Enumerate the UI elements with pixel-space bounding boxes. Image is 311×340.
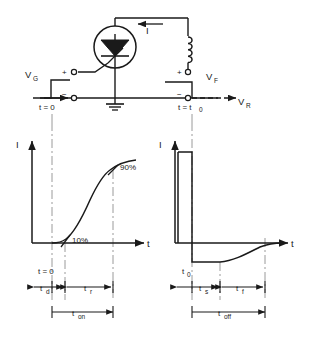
turn-on-origin-label: t = 0 bbox=[38, 267, 54, 276]
vr-label: V bbox=[238, 96, 245, 107]
turn-off-x-label: t bbox=[291, 238, 294, 249]
gate-terminal-negative bbox=[71, 95, 76, 100]
anode-plus-sign: + bbox=[177, 68, 182, 77]
turn-off-y-label: I bbox=[159, 139, 162, 150]
vf-sub: F bbox=[214, 77, 218, 84]
tr-sub: r bbox=[90, 288, 93, 295]
vg-label: V bbox=[25, 69, 32, 80]
anode-terminal-negative bbox=[185, 95, 190, 100]
tf-label: t bbox=[236, 284, 239, 293]
turn-on-y-label: I bbox=[16, 139, 19, 150]
tr-label: t bbox=[84, 284, 87, 293]
toff-sub: off bbox=[224, 313, 231, 320]
ten-percent-label: 10% bbox=[72, 236, 88, 245]
turn-on-graph: I t 10% 90% t = 0 t d t r t on bbox=[16, 122, 150, 320]
anode-switch-sub: 0 bbox=[199, 106, 203, 113]
ts-sub: s bbox=[205, 288, 209, 295]
ton-sub: on bbox=[78, 313, 86, 320]
inductor-icon bbox=[188, 30, 192, 70]
turn-on-x-label: t bbox=[147, 238, 150, 249]
vg-sub: G bbox=[33, 75, 38, 82]
anode-minus-sign: − bbox=[177, 90, 182, 99]
figure-root: I + − bbox=[0, 0, 311, 340]
ninety-percent-label: 90% bbox=[120, 163, 136, 172]
thyristor-switching-figure: I + − bbox=[0, 0, 311, 340]
circuit-diagram: I + − bbox=[25, 18, 251, 122]
tf-sub: f bbox=[242, 288, 244, 295]
turn-off-origin-sub: 0 bbox=[187, 271, 191, 278]
gate-plus-sign: + bbox=[62, 68, 67, 77]
turn-off-current-block bbox=[178, 152, 220, 262]
ground-icon bbox=[106, 98, 124, 110]
td-sub: d bbox=[46, 288, 50, 295]
vr-sub: R bbox=[246, 102, 251, 109]
td-label: t bbox=[40, 284, 43, 293]
gate-terminal-positive bbox=[71, 69, 76, 74]
turn-off-recovery-curve bbox=[220, 243, 282, 262]
ton-label: t bbox=[72, 309, 75, 318]
toff-label: t bbox=[218, 309, 221, 318]
anode-switch-label: t = t bbox=[178, 103, 192, 112]
anode-terminal-positive bbox=[185, 69, 190, 74]
vf-label: V bbox=[206, 71, 213, 82]
turn-off-origin-label: t bbox=[182, 267, 185, 276]
current-label: I bbox=[146, 25, 149, 36]
turn-off-graph: I t t 0 t s t f t off bbox=[159, 122, 294, 320]
vg-switch-label: t = 0 bbox=[39, 103, 55, 112]
turn-on-current-curve bbox=[52, 160, 136, 243]
ts-label: t bbox=[199, 284, 202, 293]
